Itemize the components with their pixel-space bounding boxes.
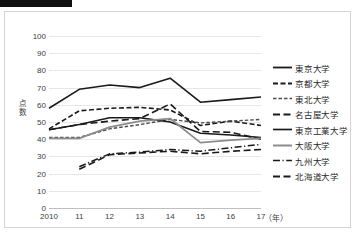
series-line	[49, 78, 261, 108]
x-tick-label: 16	[226, 212, 235, 221]
y-tick-label: 70	[20, 83, 46, 92]
series-line	[79, 150, 261, 170]
x-axis-unit-label: （年）	[264, 212, 288, 223]
y-tick-label: 50	[20, 118, 46, 127]
redaction-bar	[0, 0, 72, 7]
legend-label: 東北大学	[295, 93, 330, 105]
legend-line-swatch	[273, 156, 292, 165]
legend-item[interactable]: 東京工業大学	[273, 122, 355, 138]
x-axis-ticks: 201011121314151617	[49, 212, 261, 226]
x-tick-label: 12	[105, 212, 114, 221]
legend-item[interactable]: 北海道大学	[273, 169, 355, 185]
y-tick-label: 90	[20, 49, 46, 58]
chart-frame: 点数 0102030405060708090100 20101112131415…	[4, 11, 351, 228]
x-tick-label: 13	[135, 212, 144, 221]
legend-line-swatch	[273, 141, 292, 150]
series-line	[79, 144, 261, 166]
x-tick-label: 14	[166, 212, 175, 221]
y-tick-label: 30	[20, 152, 46, 161]
legend-item[interactable]: 京都大学	[273, 76, 355, 92]
x-tick-label: 2010	[40, 212, 58, 221]
plot-area	[49, 36, 261, 208]
y-tick-label: 100	[20, 32, 46, 41]
legend-line-swatch	[273, 79, 292, 88]
y-tick-label: 20	[20, 169, 46, 178]
y-tick-label: 40	[20, 135, 46, 144]
legend-label: 京都大学	[295, 77, 330, 89]
chart-figure: 点数 0102030405060708090100 20101112131415…	[0, 0, 355, 232]
series-lines	[49, 36, 261, 208]
legend-label: 東京大学	[295, 62, 330, 74]
legend-label: 名古屋大学	[295, 108, 339, 120]
legend-line-swatch	[273, 94, 292, 103]
x-tick-label: 15	[196, 212, 205, 221]
y-tick-label: 10	[20, 186, 46, 195]
legend-label: 東京工業大学	[295, 124, 348, 136]
legend-item[interactable]: 東北大学	[273, 91, 355, 107]
legend-line-swatch	[273, 125, 292, 134]
legend-label: 九州大学	[295, 155, 330, 167]
chart-legend: 東京大学京都大学東北大学名古屋大学東京工業大学大阪大学九州大学北海道大学	[273, 60, 355, 184]
legend-line-swatch	[273, 63, 292, 72]
legend-item[interactable]: 名古屋大学	[273, 107, 355, 123]
y-tick-label: 80	[20, 66, 46, 75]
legend-line-swatch	[273, 110, 292, 119]
legend-item[interactable]: 九州大学	[273, 153, 355, 169]
legend-label: 大阪大学	[295, 139, 330, 151]
x-axis-line	[49, 208, 261, 209]
legend-line-swatch	[273, 172, 292, 181]
legend-item[interactable]: 東京大学	[273, 60, 355, 76]
y-axis-ticks: 0102030405060708090100	[16, 36, 46, 208]
legend-label: 北海道大学	[295, 170, 339, 182]
y-tick-label: 60	[20, 100, 46, 109]
legend-item[interactable]: 大阪大学	[273, 138, 355, 154]
x-tick-label: 11	[75, 212, 83, 221]
